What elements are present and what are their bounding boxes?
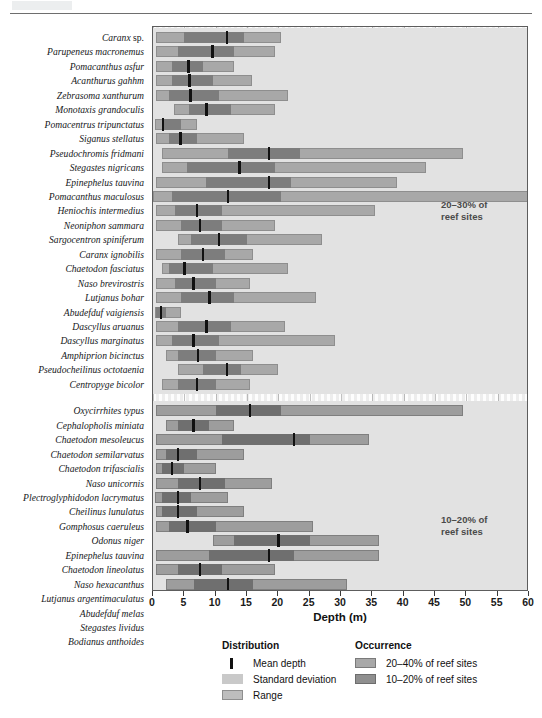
mean-depth-marker xyxy=(188,74,191,87)
species-label: Naso unicornis xyxy=(0,478,144,489)
standard-deviation-bar xyxy=(169,133,197,144)
species-label: Cephalopholis miniata xyxy=(0,420,144,431)
species-bar-row xyxy=(153,350,527,361)
species-bar-row xyxy=(153,61,527,72)
plot-area: 20–30% ofreef sites10–20% ofreef sites xyxy=(152,26,528,591)
mean-depth-marker xyxy=(249,404,252,417)
species-bar-row xyxy=(153,249,527,260)
axis-tick-label: 0 xyxy=(149,596,155,608)
mean-depth-marker xyxy=(189,89,192,102)
mean-depth-marker xyxy=(277,534,280,547)
mean-depth-marker xyxy=(208,291,211,304)
species-bar-row xyxy=(153,506,527,517)
mean-depth-marker xyxy=(211,45,214,58)
species-bar-row xyxy=(153,148,527,159)
standard-deviation-bar xyxy=(172,75,213,86)
axis-tick-label: 15 xyxy=(240,596,252,608)
standard-deviation-bar xyxy=(175,205,222,216)
species-label: Heniochis intermedius xyxy=(0,205,144,216)
mean-depth-marker xyxy=(199,563,202,576)
legend-item-occurrence-low: 10–20% of reef sites xyxy=(355,672,477,686)
standard-deviation-bar xyxy=(166,449,197,460)
mean-depth-marker xyxy=(268,176,271,189)
species-label: Neoniphon sammara xyxy=(0,220,144,231)
species-bar-row xyxy=(153,307,527,318)
mean-depth-marker xyxy=(192,419,195,432)
mean-depth-marker xyxy=(177,505,180,518)
species-label: Parupeneus macronemus xyxy=(0,46,144,57)
standard-deviation-bar xyxy=(162,463,184,474)
mean-depth-marker xyxy=(192,277,195,290)
species-bar-row xyxy=(153,564,527,575)
species-label: Zebrasoma xanthurum xyxy=(0,90,144,101)
standard-deviation-bar xyxy=(181,220,222,231)
species-bar-row xyxy=(153,32,527,43)
legend-item-range: Range xyxy=(222,688,336,702)
species-bar-row xyxy=(153,434,527,445)
legend-item-occurrence-high: 20–40% of reef sites xyxy=(355,656,477,670)
header-divider xyxy=(10,13,532,14)
legend-item-standard-deviation: Standard deviation xyxy=(222,672,336,686)
standard-deviation-bar xyxy=(209,550,294,561)
mean-depth-marker xyxy=(186,520,189,533)
species-bar-row xyxy=(153,133,527,144)
range-icon xyxy=(222,690,248,700)
axis-tick-label: 60 xyxy=(522,596,534,608)
species-bar-row xyxy=(153,220,527,231)
standard-deviation-bar xyxy=(206,177,291,188)
mean-depth-marker xyxy=(196,378,199,391)
axis-tick-label: 5 xyxy=(180,596,186,608)
mean-depth-marker xyxy=(218,233,221,246)
species-label: Naso hexacanthus xyxy=(0,579,144,590)
species-label: Pomacanthus maculosus xyxy=(0,191,144,202)
species-label: Amphiprion bicinctus xyxy=(0,350,144,361)
legend-occurrence-title: Occurrence xyxy=(355,640,477,651)
species-bar-row xyxy=(153,492,527,503)
species-bar-row xyxy=(153,321,527,332)
species-label: Epinephelus tauvina xyxy=(0,177,144,188)
species-label: Chaetodon mesoleucus xyxy=(0,434,144,445)
chart-page: Caranx sp.Parupeneus macronemusPomacanth… xyxy=(0,0,542,718)
mean-depth-marker xyxy=(187,60,190,73)
species-bar-row xyxy=(153,379,527,390)
standard-deviation-bar xyxy=(178,46,234,57)
species-bar-row xyxy=(153,463,527,474)
species-label: Pseudochromis fridmani xyxy=(0,148,144,159)
occurrence-low-icon xyxy=(355,674,381,684)
species-bar-row xyxy=(153,535,527,546)
species-bar-row xyxy=(153,263,527,274)
species-bar-row xyxy=(153,162,527,173)
axis-tick-label: 35 xyxy=(365,596,377,608)
species-bar-row xyxy=(153,292,527,303)
axis-title: Depth (m) xyxy=(152,611,528,623)
standard-deviation-bar xyxy=(169,90,219,101)
species-bar-row xyxy=(153,75,527,86)
standard-deviation-bar xyxy=(169,263,213,274)
mean-depth-marker xyxy=(268,147,271,160)
legend-label-range: Range xyxy=(253,690,282,701)
species-bar-row xyxy=(153,46,527,57)
species-label: Caranx ignobilis xyxy=(0,249,144,260)
species-bar-row xyxy=(153,90,527,101)
species-bar-row xyxy=(153,449,527,460)
mean-depth-icon xyxy=(222,658,248,669)
legend-label-occurrence-low: 10–20% of reef sites xyxy=(386,674,477,685)
axis-tick-label: 20 xyxy=(271,596,283,608)
standard-deviation-bar xyxy=(184,32,244,43)
mean-depth-marker xyxy=(177,448,180,461)
standard-deviation-bar xyxy=(222,434,310,445)
species-bar-row xyxy=(153,191,527,202)
axis-tick-label: 10 xyxy=(209,596,221,608)
species-label: Lutjanus bohar xyxy=(0,292,144,303)
species-label: Gomphosus caeruleus xyxy=(0,521,144,532)
mean-depth-marker xyxy=(205,320,208,333)
standard-deviation-bar xyxy=(162,506,196,517)
standard-deviation-bar xyxy=(178,478,225,489)
standard-deviation-bar xyxy=(228,148,300,159)
species-bar-row xyxy=(153,521,527,532)
occurrence-high-icon xyxy=(355,658,381,668)
species-label: Acanthurus gahhm xyxy=(0,75,144,86)
legend-label-mean-depth: Mean depth xyxy=(253,658,306,669)
species-bar-row xyxy=(153,234,527,245)
mean-depth-marker xyxy=(205,103,208,116)
